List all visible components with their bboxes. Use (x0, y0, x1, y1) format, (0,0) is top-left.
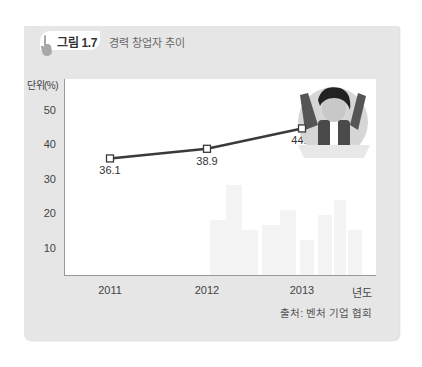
building-silhouette (240, 230, 258, 275)
series-line (110, 128, 302, 158)
city-skyline-background (210, 185, 362, 275)
building-silhouette (300, 240, 314, 275)
source-note: 출처: 벤처 기업 협회 (280, 305, 372, 320)
desk (298, 145, 370, 158)
building-silhouette (262, 225, 282, 275)
data-point-marker (204, 145, 211, 152)
building-silhouette (318, 215, 332, 275)
building-silhouette (280, 210, 296, 275)
data-point-marker (299, 125, 306, 132)
building-silhouette (226, 185, 242, 275)
data-point-marker (107, 155, 114, 162)
x-axis-label: 년도 (352, 284, 372, 300)
building-silhouette (348, 230, 362, 275)
building-silhouette (334, 200, 346, 275)
cheering-businessman-illustration (298, 87, 370, 158)
